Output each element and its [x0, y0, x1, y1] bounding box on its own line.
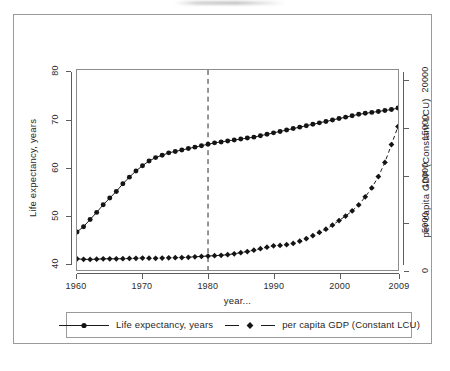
x-tick-label: 1990	[258, 282, 290, 291]
diamond-marker	[290, 241, 296, 247]
circle-marker	[88, 217, 93, 222]
x-tick-label: 2009	[383, 282, 415, 291]
diamond-marker	[87, 257, 93, 263]
right-axis-title: per capita GDP (Constant LCU)	[421, 98, 431, 238]
diamond-marker	[382, 160, 388, 166]
circle-marker	[238, 137, 243, 142]
circle-marker	[81, 224, 86, 229]
diamond-marker	[140, 255, 146, 261]
diamond-marker	[81, 256, 87, 262]
circle-marker	[278, 129, 283, 134]
diamond-marker	[127, 256, 133, 262]
circle-marker	[396, 106, 398, 111]
circle-marker	[389, 107, 394, 112]
diamond-marker	[369, 185, 375, 191]
x-tick-label: 1960	[60, 282, 92, 291]
diamond-marker	[159, 255, 165, 261]
x-tick	[274, 274, 275, 279]
diamond-marker	[244, 249, 250, 255]
circle-marker	[166, 150, 171, 155]
diamond-marker	[205, 253, 211, 259]
diamond-marker	[375, 174, 381, 180]
circle-marker	[147, 158, 152, 163]
left-tick	[66, 71, 71, 72]
circle-marker	[199, 143, 204, 148]
diamond-marker	[153, 255, 159, 261]
diamond-marker	[356, 202, 362, 208]
circle-marker	[363, 111, 368, 116]
diamond-marker	[218, 252, 224, 258]
diamond-marker	[238, 250, 244, 256]
diamond-marker	[231, 251, 237, 257]
diamond-marker	[212, 253, 218, 259]
diamond-marker	[113, 256, 119, 262]
diamond-marker	[100, 256, 106, 262]
diamond-marker	[172, 255, 178, 261]
x-tick-label: 1970	[126, 282, 158, 291]
diamond-marker	[251, 247, 257, 253]
circle-marker	[114, 189, 119, 194]
left-tick-label: 50	[51, 204, 60, 226]
right-tick	[404, 128, 409, 129]
circle-marker	[343, 115, 348, 120]
figure-frame: 4050607080050001000015000200001960197019…	[13, 14, 432, 344]
legend-item-life-expectancy[interactable]: Life expectancy, years	[58, 320, 213, 331]
circle-marker	[291, 126, 296, 131]
diamond-marker	[107, 256, 113, 262]
diamond-marker	[120, 256, 126, 262]
diamond-marker	[395, 124, 398, 130]
left-tick-label: 80	[51, 60, 60, 82]
right-axis-spine	[403, 72, 404, 265]
circle-marker	[107, 196, 112, 201]
circle-marker	[284, 128, 289, 133]
left-axis-title: Life expectancy, years	[28, 113, 38, 223]
circle-marker	[120, 181, 125, 186]
circle-marker	[192, 145, 197, 150]
circle-marker	[350, 113, 355, 118]
circle-marker	[160, 153, 165, 158]
legend-key-solid-circle	[58, 320, 110, 331]
diamond-marker	[336, 218, 342, 224]
legend-label-per-capita-gdp: per capita GDP (Constant LCU)	[282, 320, 420, 330]
circle-marker	[219, 139, 224, 144]
circle-marker	[264, 132, 269, 137]
series-line	[77, 127, 398, 260]
circle-marker	[317, 120, 322, 125]
x-tick	[208, 274, 209, 279]
x-tick	[399, 274, 400, 279]
diamond-marker	[317, 230, 323, 236]
circle-marker	[127, 175, 132, 180]
right-tick-label: 0	[421, 256, 430, 286]
plot-canvas	[77, 70, 398, 270]
circle-marker	[258, 133, 263, 138]
circle-marker	[337, 116, 342, 121]
diamond-marker	[310, 233, 316, 239]
diamond-marker	[330, 222, 336, 228]
legend-key-dashed-diamond	[224, 320, 276, 331]
diamond-marker	[185, 254, 191, 260]
left-tick	[66, 264, 71, 265]
diamond-marker	[323, 226, 329, 232]
diamond-marker	[225, 252, 231, 258]
right-tick-label: 20000	[421, 65, 430, 95]
circle-marker	[94, 210, 99, 215]
legend-entries: Life expectancy, years per capita GDP (C…	[67, 313, 411, 337]
circle-marker	[225, 138, 230, 143]
diamond-marker	[77, 256, 80, 262]
left-axis-spine	[71, 72, 72, 265]
diamond-marker	[277, 243, 283, 249]
circle-marker	[173, 149, 178, 154]
diamond-marker	[199, 254, 205, 260]
circle-marker	[232, 138, 237, 143]
right-tick	[404, 223, 409, 224]
series-1	[77, 106, 398, 235]
series-2	[77, 124, 398, 263]
right-tick	[404, 80, 409, 81]
circle-marker	[251, 135, 256, 140]
circle-marker	[304, 123, 309, 128]
diamond-marker	[271, 243, 277, 249]
legend-item-per-capita-gdp[interactable]: per capita GDP (Constant LCU)	[224, 320, 420, 331]
circle-marker	[133, 168, 138, 173]
circle-marker	[179, 148, 184, 153]
diamond-marker	[297, 238, 303, 244]
